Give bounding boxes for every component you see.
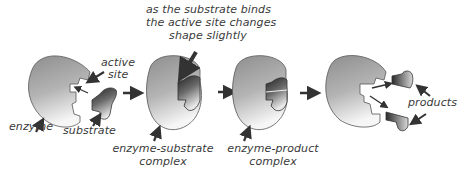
annotation-line2: the active site changes xyxy=(146,17,270,29)
enzyme-label: enzyme xyxy=(9,121,53,133)
substrate-shape xyxy=(92,88,117,119)
es-complex-label-line1: enzyme-substrate xyxy=(110,143,216,155)
products-label: products xyxy=(408,97,457,109)
substrate-label: substrate xyxy=(63,125,116,137)
enzyme-product-complex-shape xyxy=(233,56,288,130)
product-shape-2 xyxy=(386,112,408,131)
pointer-arrow-es xyxy=(154,131,158,141)
active-site-label-line2: site xyxy=(108,69,128,81)
enzyme-shape-1 xyxy=(29,56,90,127)
es-complex-label-line2: complex xyxy=(110,156,216,168)
ep-complex-label-line1: enzyme-product xyxy=(225,143,321,155)
enzyme-substrate-complex-shape xyxy=(147,56,202,130)
enzyme-mechanism-diagram: active site enzyme substrate as the subs… xyxy=(0,0,463,172)
annotation-line1: as the substrate binds xyxy=(146,4,270,16)
annotation-line3: shape slightly xyxy=(146,30,270,42)
product-shape-1 xyxy=(392,71,413,88)
enzyme-shape-4 xyxy=(326,56,386,128)
ep-complex-label-line2: complex xyxy=(225,156,321,168)
pointer-arrow-ep xyxy=(244,131,248,141)
